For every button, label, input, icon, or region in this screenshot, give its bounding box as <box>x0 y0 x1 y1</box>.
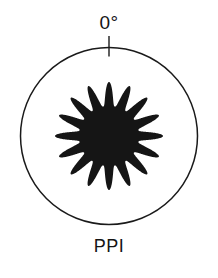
radiation-lobe-rosette <box>55 82 163 190</box>
figure-page: 0° PPI <box>0 0 218 278</box>
radiation-lobes-group <box>55 82 163 190</box>
zero-degree-label: 0° <box>0 12 218 34</box>
ppi-caption-label: PPI <box>0 236 218 257</box>
